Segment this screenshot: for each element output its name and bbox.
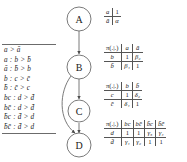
table-row: d 1 1 γ₃ γ₄ — [104, 129, 166, 138]
table-row: b̄ β₁ 1 — [104, 62, 143, 71]
table-d-header: π(.|.) bc bc̄ b̄c b̄c̄ — [104, 120, 166, 129]
table-c-cell-2-2: 1 — [132, 100, 142, 109]
table-d-cell-2-4: 1 — [156, 138, 167, 147]
table-d-cell-1-2: 1 — [133, 129, 144, 138]
table-d-pi-label: π(.|.) — [104, 120, 122, 129]
table-c-row-label-1: c — [104, 91, 122, 100]
ranking-table-c: π(.|.) b b̄ c 1 δ₂ c̄ δ₁ 1 — [104, 82, 142, 108]
table-row: a 1 — [104, 8, 121, 17]
rule-item-3: ā : b̄ > b — [2, 65, 56, 75]
table-b-cell-2-2: 1 — [132, 62, 142, 71]
rule-item-4: b : c > c̄ — [2, 75, 56, 85]
table-c-row-label-2: c̄ — [104, 100, 122, 109]
table-d-col-4: b̄c̄ — [156, 120, 167, 129]
table-d-cell-1-4: γ₄ — [156, 129, 167, 138]
table-b-col-1: a — [122, 44, 133, 53]
table-row: ā α — [104, 17, 121, 26]
table-b-row-label-1: b — [104, 53, 122, 62]
list-bottom-rule — [2, 133, 56, 134]
node-c-label: C — [76, 106, 83, 117]
table-b-cell-1-2: β₂ — [132, 53, 142, 62]
table-c-cell-1-2: δ₂ — [132, 91, 142, 100]
table-d-cell-1-3: γ₃ — [144, 129, 155, 138]
table-b-cell-1-1: 1 — [122, 53, 133, 62]
list-top-rule — [2, 44, 56, 45]
rule-item-1: a > ā — [2, 46, 56, 56]
table-c-col-2: b̄ — [132, 82, 142, 91]
conditional-preference-rules: a > ā a : b > b̄ ā : b̄ > b b : c > c̄ b… — [2, 44, 56, 134]
figure-root: a > ā a : b > b̄ ā : b̄ > b b : c > c̄ b… — [0, 0, 187, 162]
table-d-col-1: bc — [122, 120, 133, 129]
table-a-row-label-2: ā — [104, 17, 113, 26]
table-b-header: π(.|.) a ā — [104, 44, 143, 53]
table-d-row-label-1: d — [104, 129, 122, 138]
table-a-cell-2-1: α — [113, 17, 121, 26]
table-b-pi-label: π(.|.) — [104, 44, 122, 53]
table-a-cell-1-1: 1 — [113, 8, 121, 17]
table-a-row-label-1: a — [104, 8, 113, 17]
table-d-col-2: bc̄ — [133, 120, 144, 129]
table-b-cell-2-1: β₁ — [122, 62, 133, 71]
table-row: c 1 δ₂ — [104, 91, 142, 100]
table-d-cell-2-3: 1 — [144, 138, 155, 147]
table-c-pi-label: π(.|.) — [104, 82, 122, 91]
causal-network: A B C D — [56, 0, 102, 162]
table-c-col-1: b — [122, 82, 132, 91]
node-b-label: B — [76, 62, 83, 73]
ranking-table-a: a 1 ā α — [104, 8, 121, 25]
node-d-label: D — [75, 140, 82, 151]
table-c-cell-1-1: 1 — [122, 91, 132, 100]
table-row: c̄ δ₁ 1 — [104, 100, 142, 109]
table-row: b 1 β₂ — [104, 53, 143, 62]
table-row: d̄ γ₁ γ₂ 1 1 — [104, 138, 166, 147]
table-d-cell-2-1: γ₁ — [122, 138, 133, 147]
rule-item-6: bc : d > d̄ — [2, 94, 56, 104]
table-b-col-2: ā — [132, 44, 142, 53]
table-d-row-label-2: d̄ — [104, 138, 122, 147]
ranking-table-b: π(.|.) a ā b 1 β₂ b̄ β₁ 1 — [104, 44, 143, 70]
rule-item-5: b̄ : c̄ > c — [2, 84, 56, 94]
table-b-row-label-2: b̄ — [104, 62, 122, 71]
table-c-header: π(.|.) b b̄ — [104, 82, 142, 91]
rule-item-9: b̄c̄ : d̄ > d — [2, 123, 56, 133]
rule-item-7: bc̄ : d > d̄ — [2, 104, 56, 114]
rule-item-2: a : b > b̄ — [2, 56, 56, 66]
table-d-cell-1-1: 1 — [122, 129, 133, 138]
table-c-cell-2-1: δ₁ — [122, 100, 132, 109]
node-a-label: A — [75, 14, 83, 25]
ranking-table-d: π(.|.) bc bc̄ b̄c b̄c̄ d 1 1 γ₃ γ₄ d̄ γ₁… — [104, 120, 166, 146]
table-d-cell-2-2: γ₂ — [133, 138, 144, 147]
table-d-col-3: b̄c — [144, 120, 155, 129]
rule-item-8: b̄c : d̄ > d — [2, 113, 56, 123]
